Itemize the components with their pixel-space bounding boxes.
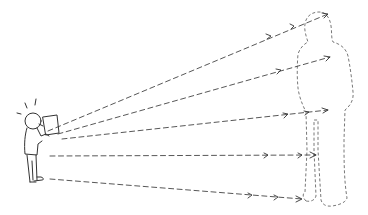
illustration-canvas: Sketch of a small person holding a sheet… <box>0 0 368 215</box>
illustration-svg <box>0 0 368 215</box>
projection-arrows <box>48 13 330 202</box>
person-holding-paper-icon <box>17 99 59 182</box>
